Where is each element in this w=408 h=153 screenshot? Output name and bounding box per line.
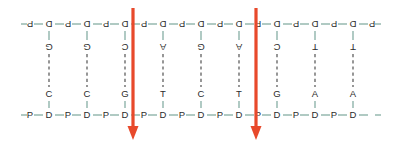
bottom-sugar-label: D	[274, 109, 281, 120]
bottom-sugar-label: D	[46, 109, 53, 120]
top-base-letter: G	[197, 42, 204, 53]
top-phosphate-label: P	[217, 19, 223, 30]
top-phosphate-label: P	[331, 19, 337, 30]
top-phosphate-label: P	[141, 19, 147, 30]
dna-duplex-svg: DDPPDDPPDDPPDDPPDDPPDDPPDDPPDDPPDDPPPGCG…	[0, 0, 408, 153]
dna-diagram-canvas: DDPPDDPPDDPPDDPPDDPPDDPPDDPPDDPPDDPPPGCG…	[0, 0, 408, 153]
top-phosphate-label: P	[27, 19, 33, 30]
bottom-phosphate-label: P	[217, 109, 223, 120]
cut-site-1-head[interactable]	[128, 126, 139, 140]
top-sugar-label: D	[349, 19, 356, 30]
bottom-phosphate-label: P	[331, 109, 337, 120]
bottom-sugar-label: D	[236, 109, 243, 120]
top-base-letter: A	[159, 42, 166, 53]
bottom-phosphate-label: P	[179, 109, 185, 120]
top-sugar-label: D	[273, 19, 280, 30]
bottom-phosphate-label: P	[103, 109, 109, 120]
top-base-letter: T	[350, 42, 356, 53]
hydrogen-bond-layer	[49, 54, 353, 87]
top-base-letter: C	[121, 42, 128, 53]
bottom-sugar-label: D	[312, 109, 319, 120]
top-phosphate-label: P	[369, 19, 375, 30]
top-phosphate-label: P	[103, 19, 109, 30]
top-base-letter: G	[83, 42, 90, 53]
top-base-letter: A	[235, 42, 242, 53]
top-phosphate-label: P	[65, 19, 71, 30]
bottom-phosphate-label: P	[293, 109, 299, 120]
bottom-phosphate-label: P	[27, 109, 33, 120]
top-sugar-label: D	[159, 19, 166, 30]
bottom-base-letter: C	[46, 88, 53, 99]
bottom-sugar-label: D	[160, 109, 167, 120]
bottom-sugar-label: D	[84, 109, 91, 120]
top-phosphate-label: P	[179, 19, 185, 30]
bottom-base-letter: C	[198, 88, 205, 99]
bottom-base-letter: T	[236, 88, 242, 99]
bottom-phosphate-label: P	[65, 109, 71, 120]
bottom-sugar-label: D	[122, 109, 129, 120]
bottom-base-letter: G	[273, 88, 280, 99]
bottom-sugar-label: D	[350, 109, 357, 120]
top-base-letter: C	[273, 42, 280, 53]
top-sugar-label: D	[45, 19, 52, 30]
bottom-base-letter: T	[160, 88, 166, 99]
bottom-phosphate-label: P	[141, 109, 147, 120]
top-sugar-label: D	[197, 19, 204, 30]
top-phosphate-label: P	[293, 19, 299, 30]
top-sugar-label: D	[235, 19, 242, 30]
top-sugar-label: D	[83, 19, 90, 30]
bottom-sugar-label: D	[198, 109, 205, 120]
cut-site-2-head[interactable]	[251, 126, 262, 140]
bottom-base-letter: A	[350, 88, 357, 99]
bottom-base-letter: A	[312, 88, 319, 99]
top-base-letter: G	[45, 42, 52, 53]
top-sugar-label: D	[121, 19, 128, 30]
bottom-base-letter: C	[84, 88, 91, 99]
top-sugar-label: D	[311, 19, 318, 30]
bottom-base-letter: G	[121, 88, 128, 99]
top-base-letter: T	[312, 42, 318, 53]
